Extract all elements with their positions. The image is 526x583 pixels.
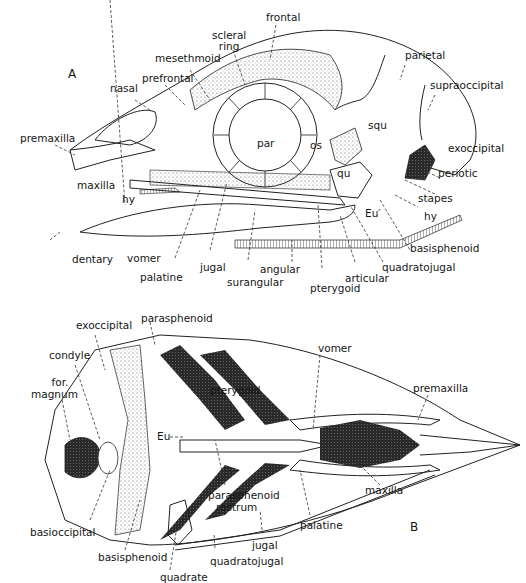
label-quadrate: quadrate (160, 572, 208, 583)
label-nasal: nasal (110, 83, 138, 94)
label-quadratojugal-b: quadratojugal (210, 556, 283, 567)
panel-label-b: B (410, 520, 418, 534)
label-exoccipital-b: exoccipital (76, 320, 132, 331)
label-periotic: periotic (438, 168, 478, 179)
label-stapes: stapes (418, 193, 453, 204)
label-eu-a: Eu′ (365, 208, 381, 219)
label-supraoccipital: supraoccipital (430, 80, 503, 91)
panel-b-drawing (45, 335, 520, 550)
label-surangular: surangular (227, 277, 284, 288)
label-parietal: parietal (405, 50, 445, 61)
label-exoccipital-a: exoccipital (448, 143, 504, 154)
label-palatine-b: palatine (300, 520, 343, 531)
label-dentary: dentary (72, 254, 113, 265)
label-pterygoid-b: pterygoid (210, 385, 260, 396)
label-articular: articular (345, 273, 389, 284)
label-maxilla-b: maxilla (365, 485, 403, 496)
label-scleral: scleralring (212, 30, 246, 52)
label-angular: angular (260, 264, 300, 275)
label-basioccipital: basioccipital (30, 527, 95, 538)
label-vomer-b: vomer (318, 343, 352, 354)
label-pterygoid-a: pterygoid (310, 283, 360, 294)
label-for-magnum-1: for. (40, 377, 80, 388)
label-quadratojugal-a: quadratojugal (382, 262, 455, 273)
label-palatine-a: palatine (140, 272, 183, 283)
label-condyle: condyle (49, 350, 90, 361)
label-parasphenoid-rostrum-1: parasphenoid (208, 490, 280, 501)
label-eu-b: Eu (157, 431, 170, 442)
label-for-magnum-2: magnum (31, 389, 78, 400)
label-prefrontal: prefrontal (142, 73, 194, 84)
label-os: os (310, 140, 322, 151)
label-frontal: frontal (266, 12, 300, 23)
label-premaxilla-a: premaxilla (20, 133, 75, 144)
label-mesethmoid: mesethmoid (155, 53, 221, 64)
label-qu: qu (337, 168, 350, 179)
label-premaxilla-b: premaxilla (413, 383, 468, 394)
label-squ: squ (368, 120, 387, 131)
label-basisphenoid-b: basisphenoid (98, 552, 167, 563)
label-parasphenoid-rostrum-2: rostrum (216, 502, 257, 513)
label-jugal-b: jugal (252, 540, 278, 551)
panel-label-a: A (68, 67, 76, 81)
label-basisphenoid-a: basisphenoid (410, 243, 479, 254)
label-hy-right: hy (424, 211, 437, 222)
label-scleral-ring-line2: ring (219, 40, 240, 52)
label-jugal-a: jugal (200, 262, 226, 273)
label-hy-left: hy (122, 194, 135, 205)
label-par: par (257, 138, 274, 149)
label-maxilla-a: maxilla (77, 180, 115, 191)
label-parasphenoid-b: parasphenoid (141, 313, 213, 324)
label-vomer-a: vomer (127, 253, 161, 264)
